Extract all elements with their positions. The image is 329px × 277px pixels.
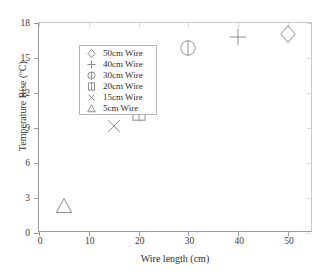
legend-item-label: 40cm Wire: [103, 59, 143, 70]
y-tick-12: 12: [34, 93, 39, 94]
plot-area: 0369121518 01020304050 50cm Wire 40cm Wi…: [38, 22, 312, 232]
triangle-icon: [83, 103, 103, 114]
x-tick-top-30: [188, 23, 189, 27]
y-tick-right-12: [307, 93, 311, 94]
diamond-icon: [83, 48, 103, 59]
y-tick-label-3: 3: [25, 194, 30, 204]
circle-icon: [83, 70, 103, 81]
x-tick-20: 20: [139, 231, 140, 236]
y-tick-label-0: 0: [25, 229, 30, 239]
x-tick-10: 10: [89, 231, 90, 236]
square-icon: [83, 81, 103, 92]
x-tick-label-20: 20: [135, 237, 145, 247]
y-tick-6: 6: [34, 163, 39, 164]
legend-item: 15cm Wire: [83, 92, 153, 103]
y-axis-label-degree: o: [16, 71, 24, 75]
legend-item: 5cm Wire: [83, 103, 153, 114]
legend-item: 50cm Wire: [83, 48, 153, 59]
x-tick-label-40: 40: [235, 237, 245, 247]
y-tick-right-15: [307, 58, 311, 59]
plus-icon: [83, 59, 103, 70]
x-tick-50: 50: [288, 231, 289, 236]
legend-item-label: 15cm Wire: [103, 92, 143, 103]
x-tick-30: 30: [188, 231, 189, 236]
x-tick-top-40: [238, 23, 239, 27]
x-tick-label-0: 0: [38, 237, 43, 247]
x-tick-label-10: 10: [85, 237, 95, 247]
x-tick-40: 40: [238, 231, 239, 236]
legend-item-label: 5cm Wire: [103, 103, 138, 114]
y-tick-right-3: [307, 198, 311, 199]
y-axis-label: Temperature Rise (oC): [16, 21, 28, 191]
legend-item-label: 20cm Wire: [103, 81, 143, 92]
y-tick-right-18: [307, 23, 311, 24]
x-tick-label-50: 50: [284, 237, 294, 247]
scatter-chart-figure: 0369121518 01020304050 50cm Wire 40cm Wi…: [0, 0, 329, 277]
y-tick-right-0: [307, 233, 311, 234]
legend-item: 30cm Wire: [83, 70, 153, 81]
chart-legend: 50cm Wire 40cm Wire 30cm Wire 20cm Wire …: [79, 45, 157, 115]
y-tick-right-9: [307, 128, 311, 129]
x-tick-0: 0: [39, 231, 40, 236]
x-tick-top-0: [39, 23, 40, 27]
legend-item: 40cm Wire: [83, 59, 153, 70]
y-axis-label-text: Temperature Rise (: [17, 75, 28, 152]
x-tick-label-30: 30: [185, 237, 195, 247]
legend-item-label: 30cm Wire: [103, 70, 143, 81]
y-tick-3: 3: [34, 198, 39, 199]
cross-icon: [83, 92, 103, 103]
y-tick-right-6: [307, 163, 311, 164]
legend-item-label: 50cm Wire: [103, 48, 143, 59]
legend-item: 20cm Wire: [83, 81, 153, 92]
y-axis-label-tail: C): [17, 61, 28, 71]
x-tick-top-20: [139, 23, 140, 27]
y-tick-15: 15: [34, 58, 39, 59]
x-axis-label: Wire length (cm): [38, 253, 312, 264]
y-tick-9: 9: [34, 128, 39, 129]
x-tick-top-10: [89, 23, 90, 27]
